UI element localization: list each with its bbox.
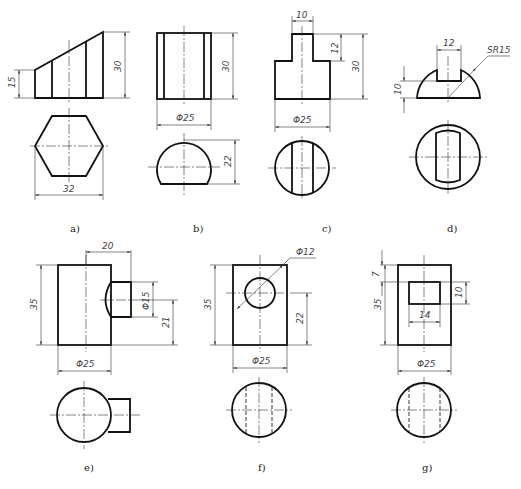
caption-a: a) bbox=[70, 223, 80, 234]
dim-d-12: 12 bbox=[443, 38, 455, 48]
panel-f: Φ12 35 22 Φ25 f) bbox=[203, 247, 316, 473]
dim-c-30: 30 bbox=[351, 60, 361, 72]
dim-g-35: 35 bbox=[373, 298, 383, 310]
dim-g-phi25: Φ25 bbox=[417, 359, 436, 369]
dim-e-20: 20 bbox=[102, 241, 114, 251]
dim-g-10: 10 bbox=[454, 286, 464, 298]
dim-b-22: 22 bbox=[223, 155, 233, 167]
dim-e-phi25: Φ25 bbox=[76, 359, 95, 369]
dim-c-phi25: Φ25 bbox=[293, 115, 312, 125]
panel-g: 35 7 10 14 Φ25 g) bbox=[371, 250, 470, 473]
dim-a-15: 15 bbox=[7, 76, 17, 88]
dim-d-10: 10 bbox=[393, 83, 403, 95]
panel-b: 30 Φ25 22 b) bbox=[148, 26, 240, 234]
panel-a: 15 30 32 a) bbox=[7, 32, 130, 234]
caption-g: g) bbox=[422, 462, 432, 473]
dim-a-30: 30 bbox=[113, 60, 123, 72]
dim-f-phi12: Φ12 bbox=[296, 247, 315, 257]
dim-e-21: 21 bbox=[161, 317, 171, 328]
caption-f: f) bbox=[258, 462, 266, 473]
caption-b: b) bbox=[193, 223, 203, 234]
orthographic-drawing-sheet: 15 30 32 a) 30 Φ25 22 b) bbox=[0, 0, 521, 489]
dim-f-phi25: Φ25 bbox=[252, 356, 271, 366]
caption-c: c) bbox=[322, 223, 332, 234]
dim-b-30: 30 bbox=[221, 60, 231, 72]
dim-d-sr15: SR15 bbox=[487, 45, 511, 55]
panel-c: 10 12 30 Φ25 c) bbox=[268, 10, 368, 234]
dim-f-35: 35 bbox=[203, 298, 213, 310]
dim-c-12: 12 bbox=[330, 42, 340, 54]
panel-d: 12 SR15 10 d) bbox=[393, 38, 511, 234]
dim-e-phi15: Φ15 bbox=[141, 291, 151, 310]
dim-g-7: 7 bbox=[371, 271, 381, 277]
dim-b-phi25: Φ25 bbox=[176, 113, 195, 123]
panel-e: 20 35 Φ15 21 Φ25 e) bbox=[29, 241, 178, 473]
dim-a-32: 32 bbox=[63, 184, 75, 194]
caption-e: e) bbox=[84, 462, 94, 473]
dim-e-35: 35 bbox=[29, 298, 39, 310]
dim-f-22: 22 bbox=[295, 312, 305, 324]
dim-g-14: 14 bbox=[419, 310, 431, 320]
caption-d: d) bbox=[447, 223, 457, 234]
dim-c-10: 10 bbox=[296, 10, 308, 20]
